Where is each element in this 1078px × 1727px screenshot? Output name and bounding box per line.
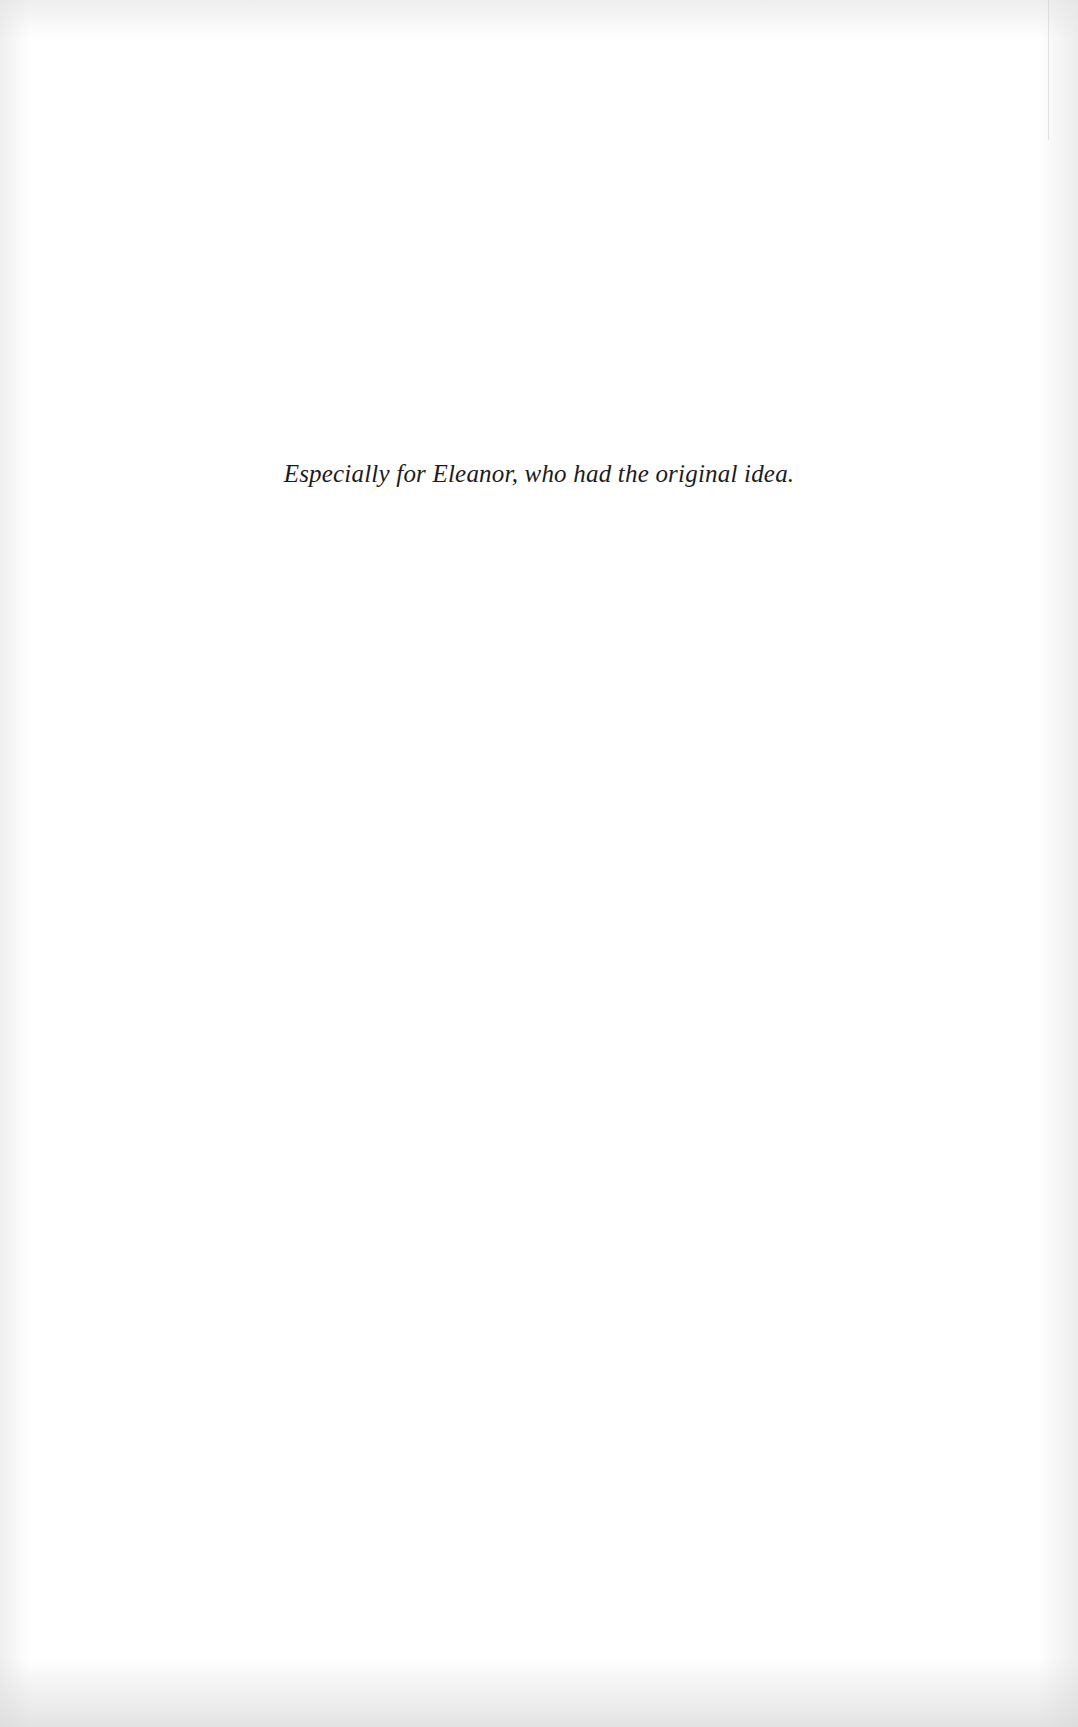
page-edge-line [1048, 0, 1049, 140]
book-page: Especially for Eleanor, who had the orig… [0, 0, 1078, 1727]
dedication-text: Especially for Eleanor, who had the orig… [284, 458, 795, 490]
dedication: Especially for Eleanor, who had the orig… [0, 458, 1078, 490]
scan-edge-shadow [0, 0, 1078, 1727]
